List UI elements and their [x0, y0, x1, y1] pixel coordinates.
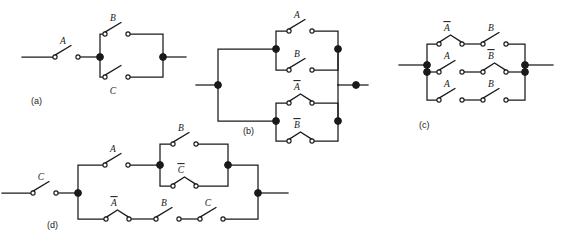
switch-terminal-left	[437, 70, 441, 74]
switch-d-Abar[interactable]: A	[104, 197, 131, 221]
switch-label: B	[294, 49, 300, 59]
switch-terminal-left	[437, 42, 441, 46]
switch-terminal-right	[460, 42, 464, 46]
switch-terminal-left	[287, 101, 291, 105]
switch-lever-open	[200, 208, 216, 218]
circuit-c	[399, 44, 553, 100]
switch-lever-open	[483, 33, 499, 43]
switch-a-A[interactable]: A	[53, 36, 80, 59]
switch-terminal-right	[126, 163, 130, 167]
circuit-d-wires	[2, 144, 288, 219]
switch-terminal-left	[481, 70, 485, 74]
switch-lever-open	[289, 59, 305, 69]
switch-lever-open	[33, 182, 49, 192]
switch-terminal-left	[171, 184, 175, 188]
caption-d: (d)	[47, 220, 58, 230]
switch-label: A	[443, 23, 450, 33]
switch-terminal-left	[287, 29, 291, 33]
node-d-midright	[225, 162, 232, 169]
switch-lever-open	[105, 154, 121, 164]
switch-terminal-right	[76, 55, 80, 59]
switch-terminal-right	[177, 217, 181, 221]
switch-terminal-right	[310, 101, 314, 105]
node-d-split	[75, 190, 82, 197]
switch-lever-closed	[483, 63, 506, 70]
switch-label: B	[161, 198, 167, 208]
switch-d-B2[interactable]: B	[154, 198, 181, 221]
circuit-c-wires	[399, 44, 553, 100]
node-b-bot	[273, 118, 280, 125]
switch-terminal-right	[504, 42, 508, 46]
switch-lever-closed	[289, 94, 312, 101]
switch-terminal-left	[171, 142, 175, 146]
switch-label: C	[38, 172, 45, 182]
switch-label: B	[488, 51, 494, 61]
switch-terminal-right	[504, 70, 508, 74]
node-b-botright	[335, 118, 342, 125]
switch-label: A	[293, 82, 300, 92]
node-a-left	[97, 54, 104, 61]
switch-lever-open	[439, 61, 455, 71]
switch-label: B	[488, 23, 494, 33]
switch-lever-open	[55, 46, 71, 56]
switch-c-B1[interactable]: B	[481, 23, 508, 46]
switch-d-C1[interactable]: C	[198, 198, 225, 221]
switch-terminal-left	[103, 75, 107, 79]
switch-c-A1[interactable]: A	[437, 51, 464, 74]
switch-a-C[interactable]: C	[103, 66, 130, 97]
switch-terminal-left	[287, 139, 291, 143]
node-d-merge	[255, 190, 262, 197]
switch-label: A	[110, 198, 117, 208]
switch-d-C0[interactable]: C	[31, 172, 58, 195]
switch-c-Abar[interactable]: A	[437, 22, 464, 47]
switch-b-Bbar[interactable]: B	[287, 119, 314, 143]
switch-c-A2[interactable]: A	[437, 79, 464, 102]
switch-lever-closed	[439, 35, 462, 42]
switch-terminal-right	[460, 98, 464, 102]
switch-label: A	[59, 36, 66, 46]
switch-c-Bbar[interactable]: B	[481, 50, 508, 75]
switch-b-Abar[interactable]: A	[287, 81, 314, 106]
circuit-b-wires	[196, 31, 368, 141]
switch-terminal-left	[31, 191, 35, 195]
switch-terminal-left	[104, 217, 108, 221]
switch-terminal-left	[481, 42, 485, 46]
node-b-inright	[353, 82, 360, 89]
switch-terminal-left	[481, 98, 485, 102]
switch-a-B[interactable]: B	[103, 13, 130, 36]
switch-d-Cbar[interactable]: C	[171, 164, 198, 188]
switch-terminal-right	[460, 70, 464, 74]
switch-label: B	[110, 13, 116, 23]
circuit-diagram-canvas: ABC(a)ABAB(b)ABABAB(c)CABCABC(d)	[0, 0, 564, 244]
node-c-left-top	[424, 62, 431, 69]
switch-terminal-right	[126, 32, 130, 36]
switch-terminal-right	[126, 75, 130, 79]
switch-label: A	[443, 79, 450, 89]
caption-a: (a)	[31, 96, 42, 106]
switch-terminal-left	[287, 68, 291, 72]
switching-circuit-figure: ABC(a)ABAB(b)ABABAB(c)CABCABC(d)	[0, 0, 564, 244]
switch-lever-closed	[173, 177, 196, 184]
switch-lever-open	[289, 20, 305, 30]
switch-terminal-right	[194, 142, 198, 146]
node-b-topright	[335, 46, 342, 53]
switch-b-B[interactable]: B	[287, 49, 314, 72]
switch-d-A[interactable]: A	[103, 144, 130, 167]
switch-c-B2[interactable]: B	[481, 79, 508, 102]
switch-d-B1[interactable]: B	[171, 123, 198, 146]
node-b-inleft	[215, 82, 222, 89]
switch-terminal-right	[310, 139, 314, 143]
node-d-midleft	[157, 162, 164, 169]
caption-c: (c)	[419, 120, 430, 130]
switch-label: B	[178, 123, 184, 133]
switch-terminal-left	[198, 217, 202, 221]
node-c-right-bot	[522, 69, 529, 76]
switch-terminal-right	[127, 217, 131, 221]
node-a-right	[160, 54, 167, 61]
node-b-top	[273, 46, 280, 53]
switch-lever-open	[156, 208, 172, 218]
switch-terminal-left	[103, 163, 107, 167]
switch-lever-open	[105, 66, 121, 76]
switch-label: B	[488, 79, 494, 89]
switch-b-A[interactable]: A	[287, 10, 314, 33]
